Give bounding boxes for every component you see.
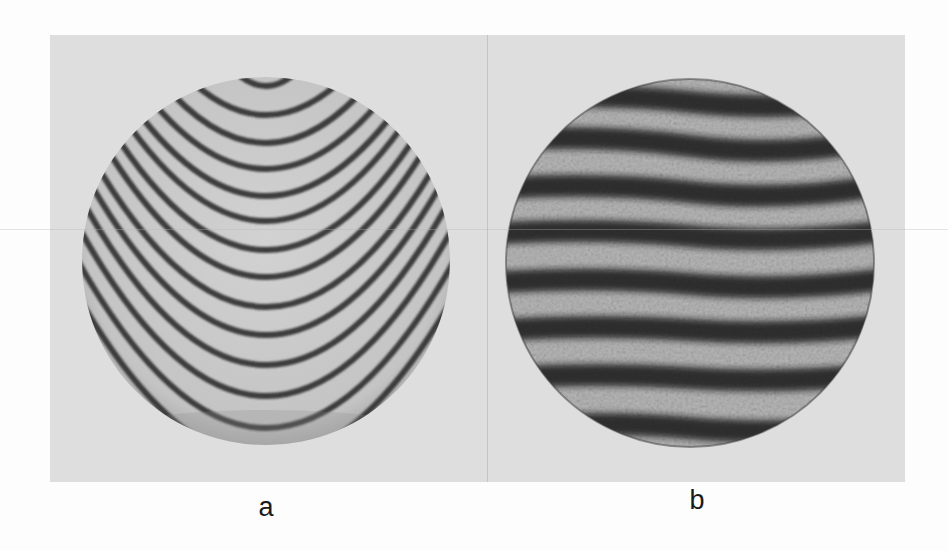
scan-artifact-line xyxy=(0,229,948,230)
figure-page: a b xyxy=(0,0,948,551)
subfigure-b-interferogram xyxy=(0,0,948,551)
subfigure-label-b: b xyxy=(689,487,704,514)
subfigure-label-a: a xyxy=(258,494,273,521)
